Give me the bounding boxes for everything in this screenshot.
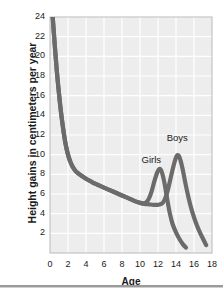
y-tick-label: 14: [25, 109, 45, 119]
y-tick-label: 6: [25, 188, 45, 198]
y-tick-label: 18: [25, 70, 45, 80]
x-tick-label: 0: [41, 259, 59, 269]
x-tick-label: 2: [59, 259, 77, 269]
y-tick-label: 24: [25, 11, 45, 21]
x-tick-label: 18: [203, 259, 221, 269]
y-tick-label: 12: [25, 129, 45, 139]
y-tick-label: 2: [25, 227, 45, 237]
y-tick-label: 20: [25, 50, 45, 60]
y-tick-label: 4: [25, 208, 45, 218]
x-tick-label: 8: [113, 259, 131, 269]
x-tick-label: 6: [95, 259, 113, 269]
y-tick-label: 22: [25, 31, 45, 41]
x-tick-label: 12: [149, 259, 167, 269]
footer-divider-shadow: [0, 287, 223, 288]
x-tick-label: 14: [167, 259, 185, 269]
annotation-girls: Girls: [142, 154, 162, 165]
annotation-boys: Boys: [167, 132, 188, 143]
y-tick-label: 8: [25, 168, 45, 178]
x-tick-label: 4: [77, 259, 95, 269]
y-tick-label: 10: [25, 149, 45, 159]
x-tick-label: 16: [185, 259, 203, 269]
y-tick-label: 16: [25, 90, 45, 100]
chart-figure: Height gains in centimeters per year Age…: [0, 0, 223, 291]
x-tick-label: 10: [131, 259, 149, 269]
